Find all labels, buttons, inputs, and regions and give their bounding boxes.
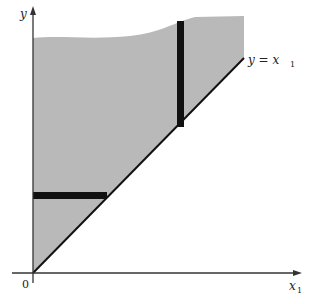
vertical-strip	[177, 21, 184, 127]
y-axis-arrow-icon	[30, 6, 36, 15]
y-axis-label: y	[19, 7, 27, 21]
shaded-region	[33, 16, 244, 273]
origin-label: 0	[22, 278, 29, 291]
diagram-canvas: y 0 x 1 y = x 1	[0, 0, 312, 304]
x-axis-arrow-icon	[293, 270, 302, 276]
x-axis-label: x	[289, 279, 296, 293]
x-axis-label-sub: 1	[297, 286, 302, 295]
line-label: y = x	[247, 53, 279, 67]
line-label-sub: 1	[290, 60, 295, 69]
horizontal-strip	[33, 192, 107, 199]
